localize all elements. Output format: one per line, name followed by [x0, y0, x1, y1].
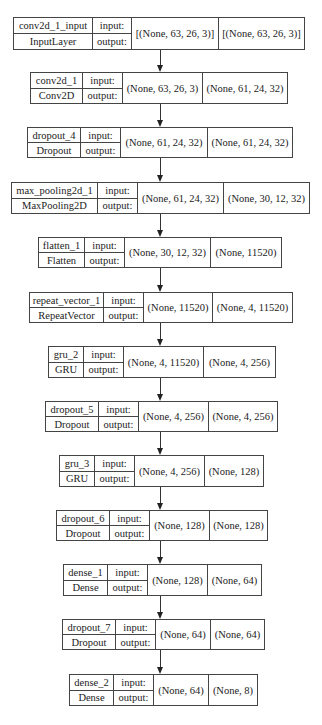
- arrow-down-icon: [157, 285, 163, 292]
- output-shape-column: (None, 61, 24, 32): [208, 128, 292, 157]
- output-label: output:: [84, 363, 123, 378]
- input-shape: (None, 61, 24, 32): [121, 128, 207, 157]
- input-shape: (None, 64): [156, 620, 210, 649]
- output-label: output:: [83, 89, 122, 104]
- edge-line: [160, 104, 161, 121]
- arrow-down-icon: [157, 557, 163, 564]
- input-shape-column: (None, 128): [148, 565, 208, 595]
- input-shape-column: (None, 11520): [144, 293, 213, 322]
- input-shape-column: (None, 128): [150, 511, 210, 540]
- layer-node-conv2d-1: conv2d_1 Conv2D input: output: (None, 63…: [30, 72, 288, 104]
- layer-name-column: flatten_1 Flatten: [39, 238, 85, 267]
- input-shape: (None, 64): [154, 675, 208, 705]
- input-shape-column: (None, 30, 12, 32): [125, 238, 211, 267]
- input-shape: (None, 30, 12, 32): [125, 238, 210, 267]
- edge-line: [160, 487, 161, 504]
- arrow-down-icon: [157, 667, 163, 674]
- layer-node-flatten-1: flatten_1 Flatten input: output: (None, …: [38, 237, 282, 268]
- io-label-column: input: output:: [99, 402, 139, 431]
- output-shape-column: (None, 4, 256): [209, 402, 277, 431]
- arrow-down-icon: [157, 612, 163, 619]
- arrow-down-icon: [157, 120, 163, 127]
- input-shape: (None, 128): [148, 565, 207, 595]
- input-label: input:: [95, 456, 134, 472]
- output-shape: [(None, 63, 26, 3)]: [219, 18, 304, 49]
- output-label: output:: [110, 526, 149, 540]
- output-shape: (None, 61, 24, 32): [208, 128, 292, 157]
- input-shape: [(None, 63, 26, 3)]: [132, 18, 218, 49]
- edge-line: [160, 323, 161, 340]
- input-shape-column: (None, 64): [154, 675, 209, 705]
- io-label-column: input: output:: [83, 73, 123, 103]
- layer-name-column: gru_3 GRU: [60, 456, 95, 486]
- layer-name-column: dropout_6 Dropout: [57, 511, 110, 540]
- input-label: input:: [84, 347, 123, 363]
- layer-node-dropout-7: dropout_7 Dropout input: output: (None, …: [62, 619, 265, 650]
- layer-class: GRU: [60, 472, 94, 487]
- layer-node-dropout-5: dropout_5 Dropout input: output: (None, …: [45, 401, 278, 432]
- input-label: input:: [116, 620, 155, 635]
- edge-line: [160, 214, 161, 231]
- layer-node-max-pooling2d-1: max_pooling2d_1 MaxPooling2D input: outp…: [11, 182, 310, 214]
- output-shape: (None, 4, 256): [209, 402, 277, 431]
- layer-name: flatten_1: [39, 238, 84, 253]
- output-shape: (None, 128): [205, 456, 263, 486]
- output-label: output:: [93, 34, 131, 49]
- output-label: output:: [95, 472, 134, 487]
- input-shape-column: (None, 61, 24, 32): [138, 183, 224, 213]
- output-shape-column: (None, 30, 12, 32): [224, 183, 309, 213]
- output-shape: (None, 64): [208, 565, 261, 595]
- io-label-column: input: output:: [110, 511, 150, 540]
- layer-name: max_pooling2d_1: [12, 183, 97, 199]
- output-shape: (None, 4, 256): [204, 347, 275, 377]
- layer-node-dense-1: dense_1 Dense input: output: (None, 128)…: [63, 564, 262, 596]
- edge-line: [160, 596, 161, 613]
- arrow-down-icon: [157, 175, 163, 182]
- input-label: input:: [114, 675, 153, 691]
- layer-class: Dropout: [28, 143, 80, 157]
- layer-class: Conv2D: [31, 89, 82, 104]
- output-shape: (None, 11520): [211, 238, 281, 267]
- output-shape-column: (None, 61, 24, 32): [203, 73, 287, 103]
- output-label: output:: [99, 417, 138, 431]
- layer-name: repeat_vector_1: [30, 293, 103, 308]
- input-label: input:: [81, 128, 120, 143]
- input-label: input:: [104, 293, 143, 308]
- io-label-column: input: output:: [114, 675, 154, 705]
- output-label: output:: [98, 199, 137, 214]
- output-label: output:: [114, 691, 153, 706]
- output-shape-column: (None, 64): [211, 620, 264, 649]
- output-label: output:: [108, 581, 147, 596]
- edge-line: [160, 541, 161, 558]
- layer-node-repeat-vector-1: repeat_vector_1 RepeatVector input: outp…: [29, 292, 293, 323]
- io-label-column: input: output:: [116, 620, 156, 649]
- input-label: input:: [110, 511, 149, 526]
- layer-class: Dropout: [46, 417, 98, 431]
- input-label: input:: [108, 565, 147, 581]
- output-shape: (None, 30, 12, 32): [224, 183, 309, 213]
- io-label-column: input: output:: [108, 565, 148, 595]
- output-shape-column: [(None, 63, 26, 3)]: [219, 18, 304, 49]
- output-shape-column: (None, 128): [210, 511, 267, 540]
- io-label-column: input: output:: [81, 128, 121, 157]
- input-label: input:: [99, 402, 138, 417]
- layer-class: GRU: [49, 363, 83, 378]
- output-label: output:: [104, 308, 143, 322]
- io-label-column: input: output:: [98, 183, 138, 213]
- layer-class: Dropout: [57, 526, 109, 540]
- output-shape-column: (None, 64): [208, 565, 261, 595]
- io-label-column: input: output:: [104, 293, 144, 322]
- output-shape: (None, 64): [211, 620, 264, 649]
- layer-name: conv2d_1: [31, 73, 82, 89]
- output-shape-column: (None, 11520): [211, 238, 281, 267]
- arrow-down-icon: [157, 448, 163, 455]
- input-shape: (None, 4, 11520): [124, 347, 203, 377]
- layer-name-column: dense_1 Dense: [64, 565, 108, 595]
- input-shape: (None, 61, 24, 32): [138, 183, 223, 213]
- output-shape-column: (None, 4, 11520): [213, 293, 292, 322]
- layer-class: MaxPooling2D: [12, 199, 97, 214]
- arrow-down-icon: [157, 339, 163, 346]
- arrow-down-icon: [157, 65, 163, 72]
- edge-line: [160, 50, 161, 66]
- layer-class: RepeatVector: [30, 308, 103, 322]
